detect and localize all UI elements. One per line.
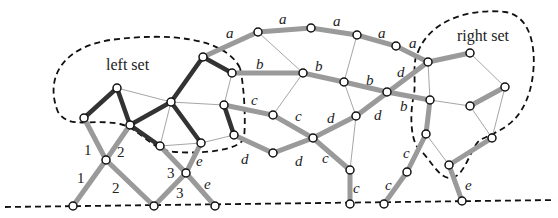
edge-label-b: b xyxy=(315,58,323,74)
edge-label-e: e xyxy=(204,176,211,192)
edge-label-a: a xyxy=(226,25,234,41)
edge-label-c: c xyxy=(353,180,360,196)
edge-label-c: c xyxy=(403,145,410,161)
left-set-label: left set xyxy=(106,56,150,73)
edge-label-number: 1 xyxy=(77,170,85,186)
nodes xyxy=(69,24,509,210)
edge-label-d: d xyxy=(241,151,249,167)
grey-paths xyxy=(73,28,505,206)
edge-label-c: c xyxy=(385,177,392,193)
edge-label-number: 3 xyxy=(176,185,184,201)
graph-diagram: left set right set a a a a a b b b b c c… xyxy=(0,0,558,218)
edge-label-c: c xyxy=(322,150,329,166)
ground-line xyxy=(5,200,555,207)
edge-label-d: d xyxy=(295,153,303,169)
left-set-boundary xyxy=(54,37,245,153)
edge-label-c: c xyxy=(295,108,302,124)
edge-label-number: 3 xyxy=(167,165,175,181)
edge-label-a: a xyxy=(333,13,341,29)
edge-label-a: a xyxy=(409,35,417,51)
edge-label-b: b xyxy=(256,56,264,72)
edge-label-number: 2 xyxy=(117,144,125,160)
edge-label-b: b xyxy=(366,72,374,88)
edge-label-c: c xyxy=(251,92,258,108)
edge-label-b: b xyxy=(400,98,408,114)
edge-label-a: a xyxy=(378,25,386,41)
edge-label-d: d xyxy=(397,64,405,80)
right-set-label: right set xyxy=(457,27,510,45)
edge-label-d: d xyxy=(374,107,382,123)
edge-label-d: d xyxy=(327,110,335,126)
edge-label-e: e xyxy=(465,177,472,193)
edge-label-a: a xyxy=(279,11,287,27)
edge-label-number: 2 xyxy=(112,180,120,196)
edge-label-e: e xyxy=(196,153,203,169)
edge-label-number: 1 xyxy=(84,142,92,158)
